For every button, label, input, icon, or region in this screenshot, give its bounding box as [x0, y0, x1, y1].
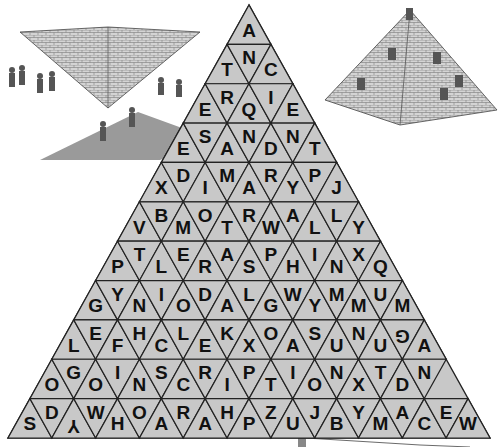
- grid-letter: M: [373, 413, 389, 434]
- grid-letter: H: [133, 323, 147, 344]
- grid-letter: J: [309, 402, 320, 423]
- grid-letter: C: [264, 59, 278, 80]
- grid-letter: G: [66, 362, 81, 383]
- grid-letter: P: [243, 413, 256, 434]
- grid-letter: P: [243, 362, 256, 383]
- grid-cell[interactable]: A: [227, 5, 271, 44]
- grid-letter: A: [198, 413, 212, 434]
- grid-letter: O: [176, 295, 191, 316]
- grid-letter: Y: [352, 402, 365, 423]
- grid-letter: J: [331, 177, 342, 198]
- grid-letter: Y: [67, 416, 80, 437]
- grid-letter: C: [176, 374, 190, 395]
- grid-letter: Z: [265, 402, 277, 423]
- grid-letter: N: [330, 256, 344, 277]
- grid-letter: A: [220, 138, 234, 159]
- grid-letter: S: [155, 362, 168, 383]
- grid-letter: M: [175, 217, 191, 238]
- grid-letter: A: [286, 205, 300, 226]
- grid-letter: R: [198, 256, 212, 277]
- grid-letter: D: [395, 374, 409, 395]
- grid-letter: C: [417, 413, 431, 434]
- grid-letter: A: [220, 295, 234, 316]
- grid-letter: W: [284, 284, 302, 305]
- grid-letter: P: [308, 165, 321, 186]
- grid-letter: O: [88, 374, 103, 395]
- grid-letter: G: [264, 295, 279, 316]
- grid-letter: K: [220, 323, 234, 344]
- grid-letter: I: [268, 87, 273, 108]
- grid-letter: N: [286, 126, 300, 147]
- grid-letter: A: [242, 20, 256, 41]
- grid-letter: A: [286, 335, 300, 356]
- grid-letter: M: [351, 295, 367, 316]
- grid-letter: W: [262, 217, 280, 238]
- grid-letter: E: [177, 244, 190, 265]
- grid-letter: N: [417, 362, 431, 383]
- grid-letter: I: [159, 284, 164, 305]
- grid-letter: T: [375, 362, 387, 383]
- grid-letter: O: [264, 323, 279, 344]
- grid-letter: X: [352, 244, 365, 265]
- grid-letter: R: [242, 205, 256, 226]
- grid-letter: Q: [242, 99, 257, 120]
- grid-letter: O: [132, 402, 147, 423]
- grid-letter: H: [111, 413, 125, 434]
- grid-letter: S: [199, 126, 212, 147]
- grid-letter: G: [88, 295, 103, 316]
- grid-letter: U: [374, 335, 388, 356]
- grid-letter: X: [243, 335, 256, 356]
- grid-letter: A: [220, 244, 234, 265]
- grid-letter: C: [154, 335, 168, 356]
- grid-letter: T: [265, 374, 277, 395]
- grid-letter: I: [312, 244, 317, 265]
- grid-letter: Y: [352, 217, 365, 238]
- grid-letter: R: [176, 402, 190, 423]
- grid-letter: P: [265, 244, 278, 265]
- grid-letter: L: [331, 205, 343, 226]
- grid-letter: R: [264, 165, 278, 186]
- grid-letter: U: [286, 413, 300, 434]
- grid-letter: L: [177, 323, 189, 344]
- grid-letter: E: [199, 99, 212, 120]
- grid-letter: N: [330, 362, 344, 383]
- grid-letter: E: [89, 323, 102, 344]
- grid-letter: A: [154, 413, 168, 434]
- grid-letter: O: [307, 374, 322, 395]
- grid-letter: S: [308, 323, 321, 344]
- grid-letter: A: [417, 335, 431, 356]
- grid-letter: S: [243, 256, 256, 277]
- grid-letter: M: [394, 295, 410, 316]
- grid-letter: W: [87, 402, 105, 423]
- grid-letter: I: [115, 362, 120, 383]
- grid-letter: H: [286, 256, 300, 277]
- grid-letter: Y: [308, 295, 321, 316]
- grid-letter: B: [154, 205, 168, 226]
- grid-letter: I: [224, 374, 229, 395]
- grid-letter: X: [155, 177, 168, 198]
- grid-letter: U: [330, 335, 344, 356]
- letter-grid: ATNCERQIEESANDNTXDIMARYPJVBMOTRWALLYPTLE…: [0, 0, 499, 447]
- grid-letter: N: [352, 323, 366, 344]
- grid-letter: D: [198, 284, 212, 305]
- grid-letter: N: [242, 47, 256, 68]
- grid-letter: T: [221, 217, 233, 238]
- grid-letter: D: [264, 138, 278, 159]
- grid-letter: Q: [373, 256, 388, 277]
- grid-letter: H: [220, 402, 234, 423]
- grid-letter: N: [242, 126, 256, 147]
- grid-letter: B: [330, 413, 344, 434]
- grid-letter: D: [45, 402, 59, 423]
- grid-letter: E: [199, 335, 212, 356]
- grid-letter: E: [286, 99, 299, 120]
- grid-letter: Y: [111, 284, 124, 305]
- grid-letter: R: [198, 362, 212, 383]
- grid-letter: T: [309, 138, 321, 159]
- grid-letter: F: [112, 335, 124, 356]
- grid-letter: E: [440, 402, 453, 423]
- grid-letter: V: [133, 217, 146, 238]
- grid-letter: L: [243, 284, 255, 305]
- grid-letter: G: [395, 326, 410, 347]
- grid-letter: N: [133, 295, 147, 316]
- grid-letter: U: [374, 284, 388, 305]
